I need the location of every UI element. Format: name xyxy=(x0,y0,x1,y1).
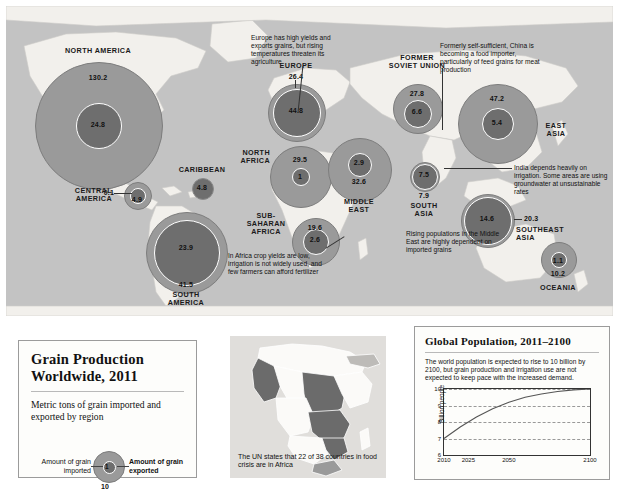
africa-panel-caption: The UN states that 22 of 38 countries in… xyxy=(238,453,382,470)
annotation-india: India depends heavily on irrigation. Som… xyxy=(514,164,613,196)
region-label-caribbean: CARIBBEAN xyxy=(172,166,232,175)
chart-y-tick-label: 9 xyxy=(438,403,441,409)
value-europe-exported: 26.4 xyxy=(268,73,324,80)
leader-line-china-annotation xyxy=(442,68,443,130)
value-southeast-asia-exported: 20.3 xyxy=(524,215,550,222)
value-south-america-imported: 23.9 xyxy=(156,244,216,251)
annotation-china: Formerly self-sufficient, China is becom… xyxy=(440,42,548,74)
infographic-page: 130.2 24.8 NORTH AMERICA 4.9 0.1 CENTRAL… xyxy=(0,0,619,496)
region-label-south-asia-line2: ASIA xyxy=(404,210,444,219)
value-caribbean-imported: 4.8 xyxy=(192,184,212,191)
annotation-africa: In Africa crop yields are low, irrigatio… xyxy=(228,252,324,276)
annotation-europe: Europe has high yields and exports grain… xyxy=(251,34,351,66)
legend-outer-value: 10 xyxy=(101,483,109,490)
value-north-africa-exported: 29.5 xyxy=(270,156,330,163)
chart-x-tick-label: 2025 xyxy=(462,457,475,463)
value-oceania-imported: 1.1 xyxy=(551,257,565,264)
value-central-america-imported: 4.9 xyxy=(124,196,150,203)
region-label-oceania: OCEANIA xyxy=(532,284,584,293)
legend-imported-label: Amount of grain imported xyxy=(31,457,91,475)
value-sub-saharan-exported: 19.6 xyxy=(292,224,338,231)
chart-y-tick-label: 7 xyxy=(438,436,441,442)
value-southeast-asia-imported: 14.6 xyxy=(461,215,513,222)
value-middle-east-exported: 32.6 xyxy=(328,178,390,185)
legend-panel: Grain Production Worldwide, 2011 Metric … xyxy=(18,340,197,478)
region-label-southeast-asia-line2: ASIA xyxy=(516,234,578,243)
region-label-sub-saharan-line3: AFRICA xyxy=(244,228,288,237)
legend-diagram: 1 10 Amount of grain imported Amount of … xyxy=(31,447,184,495)
leader-line-southeast-asia xyxy=(514,219,522,220)
value-north-america-exported: 130.2 xyxy=(68,74,128,81)
leader-line-central-america xyxy=(114,193,132,194)
legend-inner-value: 1 xyxy=(105,463,109,470)
value-north-america-imported: 24.8 xyxy=(68,121,128,128)
chart-series-path xyxy=(444,389,590,455)
value-europe-imported: 44.8 xyxy=(268,107,324,114)
region-label-north-africa-line2: AFRICA xyxy=(234,157,270,166)
legend-divider xyxy=(31,391,184,392)
chart-y-tick-label: 10 xyxy=(434,386,441,392)
value-middle-east-imported: 2.9 xyxy=(348,159,370,166)
value-south-america-exported: 41.5 xyxy=(156,281,216,288)
value-fsu-imported: 6.6 xyxy=(404,108,430,115)
value-south-asia-imported: 7.5 xyxy=(410,171,438,178)
region-label-middle-east-line2: EAST xyxy=(328,206,390,215)
legend-leader-right xyxy=(117,466,129,467)
population-panel-title: Global Population, 2011–2100 xyxy=(425,335,599,347)
region-label-east-asia-line2: ASIA xyxy=(536,130,576,139)
value-east-asia-imported: 5.4 xyxy=(482,119,512,126)
region-label-north-america: NORTH AMERICA xyxy=(53,47,143,56)
leader-line-india-annotation xyxy=(444,168,512,169)
value-fsu-exported: 27.8 xyxy=(393,90,441,97)
region-label-south-america-line2: AMERICA xyxy=(156,299,216,308)
africa-food-crisis-panel: The UN states that 22 of 38 countries in… xyxy=(228,334,388,480)
chart-x-tick-label: 2050 xyxy=(502,457,515,463)
bubble-core-south-america xyxy=(154,220,220,286)
leader-line-europe xyxy=(295,80,296,88)
population-panel-blurb: The world population is expected to rise… xyxy=(425,358,599,382)
population-line-chart: Billion people 678910 2010202520502100 xyxy=(443,388,591,456)
value-sub-saharan-imported: 2.6 xyxy=(303,236,327,243)
legend-title: Grain Production Worldwide, 2011 xyxy=(31,351,184,384)
value-oceania-exported: 10.2 xyxy=(541,270,575,277)
value-south-asia-exported: 7.9 xyxy=(410,192,438,199)
population-panel-divider xyxy=(425,352,599,353)
global-population-panel: Global Population, 2011–2100 The world p… xyxy=(414,326,610,480)
value-north-africa-imported: 1 xyxy=(292,173,308,180)
chart-x-tick-label: 2100 xyxy=(583,457,596,463)
value-east-asia-exported: 47.2 xyxy=(458,95,536,102)
chart-x-tick-label: 2010 xyxy=(437,457,450,463)
annotation-middle-east: Rising populations in the Middle East ar… xyxy=(406,230,500,254)
legend-leader-left xyxy=(91,466,103,467)
legend-exported-label: Amount of grain exported xyxy=(129,457,207,475)
chart-y-tick-label: 8 xyxy=(438,419,441,425)
legend-subtitle: Metric tons of grain imported and export… xyxy=(31,399,184,423)
world-map-panel: 130.2 24.8 NORTH AMERICA 4.9 0.1 CENTRAL… xyxy=(6,6,613,316)
region-label-central-america-line2: AMERICA xyxy=(68,195,112,204)
